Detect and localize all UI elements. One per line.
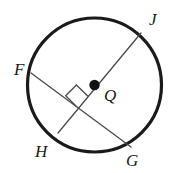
point-label-j: J: [149, 11, 157, 28]
point-label-h: H: [35, 143, 47, 160]
right-angle-square-icon: [66, 85, 88, 107]
diameter-hj-line: [58, 33, 141, 133]
point-label-f: F: [14, 61, 24, 78]
point-label-g: G: [126, 152, 138, 169]
geometry-figure: Q F J H G: [0, 0, 180, 173]
point-label-q: Q: [104, 87, 116, 104]
chord-fg-line: [31, 73, 131, 147]
center-point-dot: [89, 80, 99, 90]
